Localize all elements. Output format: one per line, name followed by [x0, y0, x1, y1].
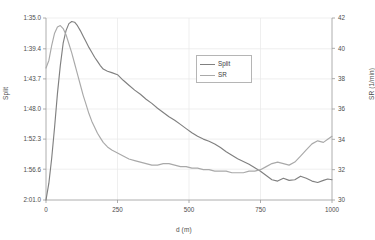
x-axis-title: d (m)	[176, 226, 192, 233]
svg-text:0: 0	[44, 206, 48, 213]
svg-text:1:35.0: 1:35.0	[23, 14, 41, 21]
svg-text:750: 750	[255, 206, 266, 213]
svg-text:38: 38	[338, 75, 346, 82]
y-axis-left-ticks: 1:35.01:39.41:43.71:48.01:52.31:56.62:01…	[23, 14, 46, 203]
svg-text:36: 36	[338, 105, 346, 112]
legend-label-split: Split	[218, 61, 230, 67]
svg-text:1000: 1000	[325, 206, 340, 213]
legend-item-sr: SR	[200, 70, 251, 81]
legend-item-split: Split	[200, 59, 251, 70]
svg-text:42: 42	[338, 14, 346, 21]
y-axis-right-ticks: 30323436384042	[332, 14, 346, 203]
x-axis-ticks: 02505007501000	[44, 200, 339, 213]
svg-text:1:48.0: 1:48.0	[23, 105, 41, 112]
y-axis-right-title: SR (1/min)	[368, 68, 375, 100]
svg-text:1:39.4: 1:39.4	[23, 45, 41, 52]
legend-label-sr: SR	[218, 72, 227, 78]
svg-text:1:43.7: 1:43.7	[23, 75, 41, 82]
svg-text:250: 250	[112, 206, 123, 213]
legend-swatch-sr-icon	[200, 75, 215, 76]
chart-container: 1:35.01:39.41:43.71:48.01:52.31:56.62:01…	[0, 0, 375, 240]
svg-text:2:01.0: 2:01.0	[23, 196, 41, 203]
svg-text:40: 40	[338, 45, 346, 52]
svg-text:32: 32	[338, 166, 346, 173]
grid-lines	[46, 18, 332, 200]
y-axis-left-title: Split	[2, 87, 9, 100]
svg-text:1:56.6: 1:56.6	[23, 166, 41, 173]
svg-text:500: 500	[184, 206, 195, 213]
svg-text:1:52.3: 1:52.3	[23, 135, 41, 142]
svg-text:30: 30	[338, 196, 346, 203]
chart-plot-area: 1:35.01:39.41:43.71:48.01:52.31:56.62:01…	[0, 0, 375, 240]
svg-text:34: 34	[338, 136, 346, 143]
chart-legend: Split SR	[196, 55, 252, 83]
legend-swatch-split-icon	[200, 64, 215, 65]
